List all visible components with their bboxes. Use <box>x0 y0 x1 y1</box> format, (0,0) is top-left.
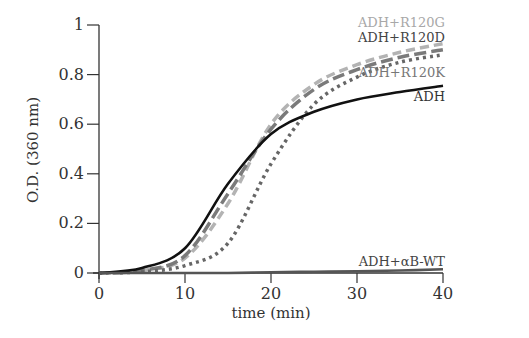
y-tick-label: 0.2 <box>59 213 84 232</box>
series-label: ADH+R120D <box>357 30 445 45</box>
series-label: ADH+R120G <box>357 15 445 30</box>
series-label: ADH+αB-WT <box>358 254 446 269</box>
y-tick-label: 0.8 <box>59 65 84 84</box>
chart: 00.20.40.60.81010203040 ADH+R120GADH+R12… <box>0 0 529 338</box>
x-tick-label: 30 <box>347 284 367 303</box>
y-axis-title: O.D. (360 nm) <box>24 97 42 203</box>
series-line <box>99 50 443 273</box>
series-line <box>99 86 443 273</box>
x-tick-label: 10 <box>175 284 195 303</box>
x-tick-label: 0 <box>94 284 104 303</box>
y-tick-label: 0.4 <box>59 164 84 183</box>
x-tick-label: 40 <box>433 284 453 303</box>
y-tick-label: 1 <box>74 15 84 34</box>
x-axis-title: time (min) <box>231 304 310 322</box>
series-label: ADH+R120K <box>358 65 446 80</box>
x-tick-label: 20 <box>261 284 281 303</box>
series-label: ADH <box>413 89 445 104</box>
y-tick-label: 0 <box>74 263 84 282</box>
series-line <box>99 55 443 273</box>
y-tick-label: 0.6 <box>59 114 84 133</box>
